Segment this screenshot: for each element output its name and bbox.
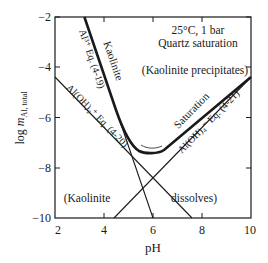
- y-tick-label: −2: [38, 10, 51, 24]
- x-tick-label: 6: [150, 223, 156, 237]
- x-tick-label: 4: [101, 223, 107, 237]
- curve-inner-edge: [141, 145, 162, 148]
- y-axis-label-log: log: [13, 126, 27, 144]
- precipitates-label: (Kaolinite precipitates): [142, 64, 249, 77]
- x-tick-label: 8: [199, 223, 205, 237]
- conditions-line2: Quartz saturation: [158, 37, 238, 49]
- x-tick-labels: 2 4 6 8 10: [55, 223, 256, 237]
- x-tick-label: 2: [55, 223, 61, 237]
- y-tick-label: −4: [38, 60, 51, 74]
- dissolves-right-label: dissolves): [171, 192, 217, 205]
- x-axis-label: pH: [145, 240, 161, 255]
- dissolves-left-label: (Kaolinite: [64, 192, 111, 205]
- y-tick-labels: −2 −4 −6 −8 −10: [32, 10, 51, 225]
- y-tick-label: −10: [32, 211, 51, 225]
- y-tick-label: −8: [38, 161, 51, 175]
- x-tick-label: 10: [244, 223, 256, 237]
- y-tick-label: −6: [38, 111, 51, 125]
- aloh2-line-label: Al(OH)₂⁺ Eq. (4-20): [64, 82, 131, 150]
- y-axis-label: log mAl, total: [13, 91, 29, 145]
- solubility-diagram: −2 −4 −6 −8 −10 2 4 6 8 10 pH log mAl, t…: [0, 0, 268, 263]
- y-axis-label-sub: Al, total: [20, 91, 29, 118]
- conditions-line1: 25°C, 1 bar: [172, 24, 225, 37]
- y-axis-label-m: m: [13, 117, 27, 126]
